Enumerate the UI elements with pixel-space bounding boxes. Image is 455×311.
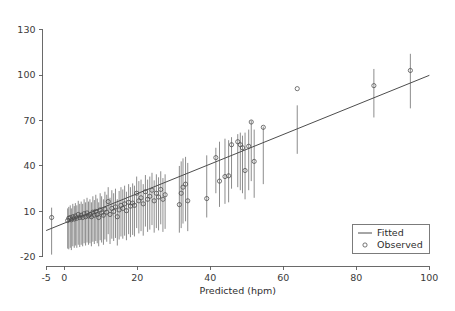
x-tick-label: 60 bbox=[277, 272, 289, 283]
observed-point-marker bbox=[295, 87, 299, 91]
y-tick-label: 40 bbox=[23, 160, 35, 171]
x-axis-title: Predicted (hpm) bbox=[200, 285, 276, 296]
y-tick-label: 100 bbox=[17, 69, 35, 80]
x-tick-label: 100 bbox=[420, 272, 438, 283]
y-tick-label: 70 bbox=[23, 115, 35, 126]
x-tick-label: 20 bbox=[131, 272, 143, 283]
fitted-line bbox=[46, 75, 429, 230]
legend[interactable]: FittedObserved bbox=[352, 224, 429, 253]
y-tick-label: 130 bbox=[17, 24, 35, 35]
chart-figure: -20104070100130-5020406080100Predicted (… bbox=[0, 0, 455, 311]
axis-labels-layer: -20104070100130-5020406080100Predicted (… bbox=[17, 24, 438, 296]
x-tick-label: 40 bbox=[204, 272, 216, 283]
legend-entry-label: Observed bbox=[377, 239, 423, 250]
x-tick-label: -5 bbox=[41, 272, 50, 283]
scatter-plot-svg: -20104070100130-5020406080100Predicted (… bbox=[0, 0, 455, 311]
x-tick-label: 0 bbox=[61, 272, 67, 283]
x-tick-label: 80 bbox=[350, 272, 362, 283]
legend-entry-label: Fitted bbox=[377, 227, 404, 238]
fitted-line-layer bbox=[46, 75, 429, 230]
y-tick-label: 10 bbox=[23, 206, 35, 217]
y-tick-label: -20 bbox=[20, 251, 36, 262]
